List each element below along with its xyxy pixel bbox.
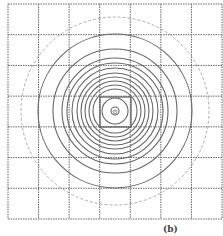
center-marker-icon: ⊙ [112, 108, 118, 116]
concentric-circles-diagram: ⊙ [0, 0, 223, 236]
figure-caption: (b) [163, 224, 178, 234]
